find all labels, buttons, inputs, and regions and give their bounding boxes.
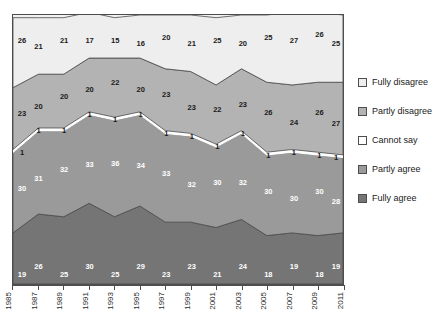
- data-label: 25: [332, 39, 340, 48]
- data-label: 1: [241, 128, 245, 137]
- x-axis-tick-label: 2011: [336, 292, 345, 309]
- legend-label: Partly agree: [372, 164, 421, 174]
- data-label: 22: [111, 78, 119, 87]
- x-axis-tick: [242, 285, 243, 290]
- x-axis-tick-label: 1993: [106, 292, 115, 310]
- x-axis-tick: [344, 285, 345, 290]
- x-axis-tick: [318, 285, 319, 290]
- data-label: 16: [137, 39, 145, 48]
- data-label: 1: [88, 109, 92, 118]
- data-label: 30: [264, 186, 272, 195]
- data-label: 18: [264, 270, 272, 279]
- x-axis-tick: [191, 285, 192, 290]
- data-label: 26: [315, 107, 323, 116]
- legend-label: Fully disagree: [372, 77, 428, 87]
- data-label: 1: [20, 147, 24, 156]
- legend-item[interactable]: Fully agree: [358, 190, 446, 206]
- legend-item[interactable]: Partly agree: [358, 161, 446, 177]
- x-axis-tick: [140, 285, 141, 290]
- data-label: 23: [18, 109, 26, 118]
- data-label: 20: [162, 33, 170, 42]
- data-label: 26: [315, 30, 323, 39]
- x-axis-tick: [216, 285, 217, 290]
- data-label: 1: [36, 126, 40, 135]
- data-label: 23: [162, 90, 170, 99]
- data-label: 19: [18, 270, 26, 279]
- data-label: 21: [60, 35, 68, 44]
- data-label: 20: [85, 85, 93, 94]
- x-axis-tick-label: 2009: [310, 292, 319, 310]
- data-label: 32: [239, 177, 247, 186]
- data-label: 30: [315, 186, 323, 195]
- data-label: 26: [34, 262, 42, 271]
- x-axis-tick: [89, 285, 90, 290]
- x-axis-tick: [63, 285, 64, 290]
- data-label: 25: [111, 270, 119, 279]
- data-label: 1: [215, 142, 219, 151]
- data-label: 1: [317, 150, 321, 159]
- x-axis-tick-label: 1995: [131, 292, 140, 310]
- legend-label: Partly disagree: [372, 106, 432, 116]
- data-label: 1: [292, 147, 296, 156]
- data-label: 1: [164, 128, 168, 137]
- data-label: 1: [266, 150, 270, 159]
- data-label: 20: [239, 39, 247, 48]
- legend-swatch: [358, 107, 367, 116]
- legend-swatch: [358, 165, 367, 174]
- data-label: 23: [239, 100, 247, 109]
- data-label: 31: [34, 173, 42, 182]
- data-label: 23: [162, 270, 170, 279]
- data-label: 19: [332, 262, 340, 271]
- legend-label: Fully agree: [372, 193, 417, 203]
- x-axis-tick-label: 1989: [55, 292, 64, 310]
- data-label: 30: [18, 183, 26, 192]
- legend-item[interactable]: Partly disagree: [358, 103, 446, 119]
- x-axis-tick-label: 2003: [233, 292, 242, 310]
- data-label: 25: [264, 33, 272, 42]
- data-label: 20: [60, 91, 68, 100]
- data-label: 33: [85, 159, 93, 168]
- x-axis-tick-label: 1999: [182, 292, 191, 310]
- x-axis-tick-label: 1987: [29, 292, 38, 310]
- data-label: 21: [213, 270, 221, 279]
- legend-item[interactable]: Fully disagree: [358, 74, 446, 90]
- data-label: 1: [190, 131, 194, 140]
- data-label: 24: [239, 262, 247, 271]
- x-axis-tick: [38, 285, 39, 290]
- legend-swatch: [358, 136, 367, 145]
- data-labels-layer: 1926253025292323212418191819303132333634…: [13, 15, 343, 284]
- x-axis-tick-label: 1997: [157, 292, 166, 310]
- x-axis-tick-label: 2005: [259, 292, 268, 310]
- data-label: 1: [334, 153, 338, 162]
- data-label: 25: [213, 35, 221, 44]
- data-label: 1: [113, 115, 117, 124]
- plot-area: 1926253025292323212418191819303132333634…: [12, 14, 344, 285]
- data-label: 1: [139, 109, 143, 118]
- data-label: 24: [290, 117, 298, 126]
- data-label: 27: [332, 119, 340, 128]
- data-label: 20: [34, 101, 42, 110]
- data-label: 30: [213, 178, 221, 187]
- data-label: 30: [85, 262, 93, 271]
- x-axis-line: [12, 285, 344, 286]
- data-label: 20: [137, 85, 145, 94]
- legend-label: Cannot say: [372, 135, 418, 145]
- chart-legend: Fully disagreePartly disagreeCannot sayP…: [358, 74, 446, 219]
- data-label: 18: [315, 270, 323, 279]
- data-label: 32: [188, 180, 196, 189]
- data-label: 30: [290, 193, 298, 202]
- data-label: 17: [85, 36, 93, 45]
- legend-swatch: [358, 194, 367, 203]
- data-label: 27: [290, 36, 298, 45]
- x-axis-tick: [267, 285, 268, 290]
- x-axis-tick-label: 2007: [284, 292, 293, 310]
- data-label: 19: [290, 262, 298, 271]
- data-label: 26: [264, 107, 272, 116]
- legend-item[interactable]: Cannot say: [358, 132, 446, 148]
- chart-figure: 1926253025292323212418191819303132333634…: [0, 0, 448, 329]
- data-label: 36: [111, 159, 119, 168]
- x-axis-tick-label: 1991: [80, 292, 89, 310]
- x-axis-tick: [293, 285, 294, 290]
- data-label: 21: [34, 41, 42, 50]
- x-axis-tick: [165, 285, 166, 290]
